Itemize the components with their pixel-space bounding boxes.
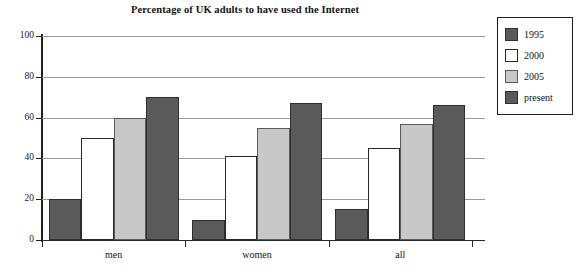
bar-all-2000 bbox=[368, 148, 401, 240]
bar-men-2005 bbox=[114, 118, 147, 240]
y-tick-label: 100 bbox=[0, 31, 34, 41]
plot-area bbox=[42, 36, 472, 240]
legend-item-label: present bbox=[524, 93, 553, 103]
bar-women-2005 bbox=[257, 128, 290, 240]
x-tick-mark bbox=[472, 240, 473, 247]
bar-women-1995 bbox=[192, 220, 225, 240]
gridline-0 bbox=[42, 240, 485, 241]
legend-item-1995[interactable]: 1995 bbox=[505, 24, 567, 45]
bar-women-2000 bbox=[225, 156, 258, 240]
chart-title: Percentage of UK adults to have used the… bbox=[0, 4, 490, 15]
x-tick-mark bbox=[42, 240, 43, 247]
bar-chart: Percentage of UK adults to have used the… bbox=[0, 0, 581, 274]
y-tick-label: 0 bbox=[0, 235, 34, 245]
gridline-80 bbox=[42, 77, 485, 78]
gridline-100 bbox=[42, 36, 485, 37]
legend-swatch-icon bbox=[505, 91, 518, 104]
bar-men-1995 bbox=[49, 199, 82, 240]
bar-women-present bbox=[290, 103, 323, 240]
bar-all-2005 bbox=[400, 124, 433, 240]
legend-item-2000[interactable]: 2000 bbox=[505, 45, 567, 66]
bar-all-1995 bbox=[335, 209, 368, 240]
bar-men-2000 bbox=[81, 138, 114, 240]
legend-swatch-icon bbox=[505, 28, 518, 41]
legend-item-label: 2000 bbox=[524, 51, 544, 61]
x-tick-label-women: women bbox=[185, 249, 328, 260]
legend-item-label: 1995 bbox=[524, 30, 544, 40]
x-tick-label-men: men bbox=[42, 249, 185, 260]
y-tick-label: 60 bbox=[0, 113, 34, 123]
bar-men-present bbox=[146, 97, 179, 240]
legend-item-2005[interactable]: 2005 bbox=[505, 66, 567, 87]
y-tick-label: 40 bbox=[0, 153, 34, 163]
legend-swatch-icon bbox=[505, 70, 518, 83]
x-tick-mark bbox=[329, 240, 330, 247]
gridline-60 bbox=[42, 118, 485, 119]
y-tick-label: 20 bbox=[0, 194, 34, 204]
x-tick-mark bbox=[185, 240, 186, 247]
chart-legend: 199520002005present bbox=[497, 17, 573, 115]
y-tick-label: 80 bbox=[0, 72, 34, 82]
x-tick-label-all: all bbox=[329, 249, 472, 260]
legend-item-label: 2005 bbox=[524, 72, 544, 82]
bar-all-present bbox=[433, 105, 466, 240]
legend-swatch-icon bbox=[505, 49, 518, 62]
legend-item-present[interactable]: present bbox=[505, 87, 567, 108]
